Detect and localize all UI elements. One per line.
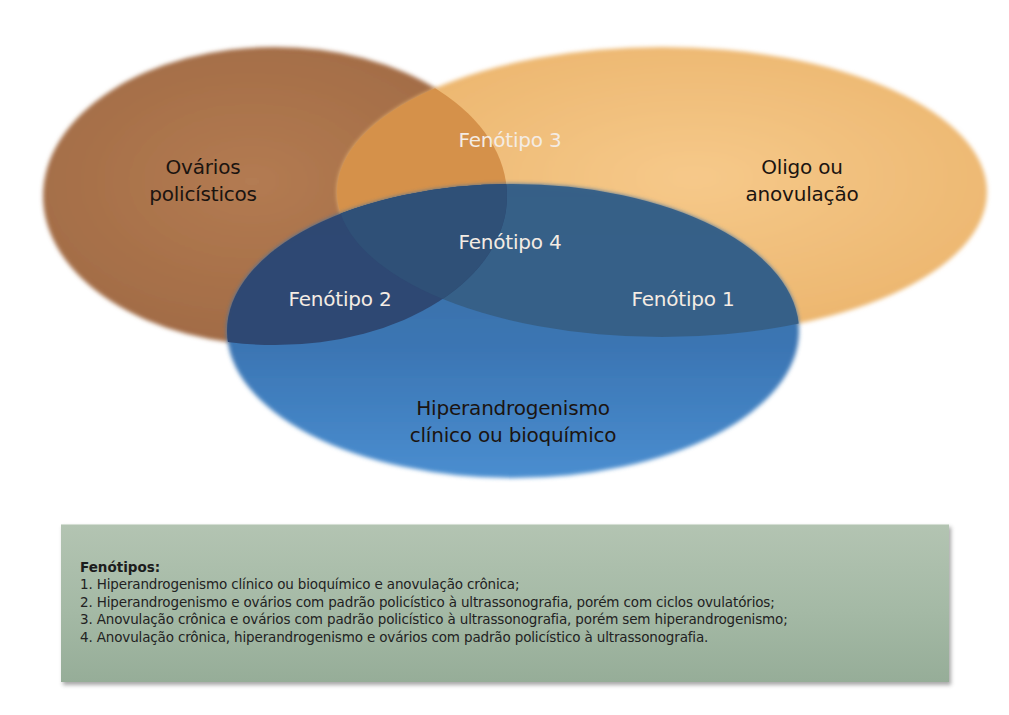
set-ovarios-label-line-2: policísticos [149, 181, 257, 208]
set-anovulacao-label-line-2: anovulação [746, 181, 859, 208]
set-hiperandrogenismo-label: Hiperandrogenismo clínico ou bioquímico [410, 395, 617, 449]
set-hiperandrogenismo-label-line-2: clínico ou bioquímico [410, 422, 617, 449]
region-fenotipo-4-label: Fenótipo 4 [458, 229, 561, 256]
region-fenotipo-3-label: Fenótipo 3 [458, 127, 561, 154]
legend-item-4: 4. Anovulação crônica, hiperandrogenismo… [80, 629, 949, 647]
set-ovarios-label-line-1: Ovários [149, 154, 257, 181]
venn-diagram: Ovários policísticos Oligo ou anovulação… [0, 0, 1009, 500]
legend-title: Fenótipos: [80, 559, 949, 576]
phenotype-legend-box: Fenótipos: 1. Hiperandrogenismo clínico … [61, 524, 949, 682]
set-anovulacao-label-line-1: Oligo ou [746, 154, 859, 181]
set-ovarios-label: Ovários policísticos [149, 154, 257, 208]
legend-item-3: 3. Anovulação crônica e ovários com padr… [80, 611, 949, 629]
set-hiperandrogenismo-label-line-1: Hiperandrogenismo [410, 395, 617, 422]
region-fenotipo-1-label: Fenótipo 1 [631, 286, 734, 313]
set-anovulacao-label: Oligo ou anovulação [746, 154, 859, 208]
legend-item-2: 2. Hiperandrogenismo e ovários com padrã… [80, 594, 949, 612]
region-fenotipo-2-label: Fenótipo 2 [288, 286, 391, 313]
legend-item-1: 1. Hiperandrogenismo clínico ou bioquími… [80, 576, 949, 594]
